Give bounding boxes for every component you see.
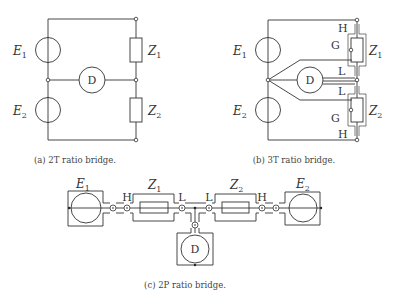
diagram-3t-bridge: D E1 E2 Z1 Z2 H G L L G H — [232, 18, 382, 165]
impedance-z2 — [222, 202, 249, 213]
caption-a: (a) 2T ratio bridge. — [34, 155, 116, 165]
label-z1: Z1 — [147, 178, 161, 194]
label-e2: E2 — [295, 177, 310, 193]
label-e2: E2 — [12, 104, 27, 120]
label-z1: Z1 — [368, 44, 382, 60]
caption-c: (c) 2P ratio bridge. — [144, 280, 226, 290]
label-l-top: L — [338, 65, 346, 78]
label-z2: Z2 — [368, 104, 382, 120]
label-g-bot: G — [331, 112, 340, 125]
label-l-left: L — [178, 191, 186, 204]
label-h-right: H — [257, 191, 267, 204]
diagram-2p-bridge: D E1 Z1 Z2 E2 H L L H (c) 2P ratio bridg… — [68, 177, 322, 290]
detector-label: D — [306, 74, 315, 87]
label-h-left: H — [122, 191, 132, 204]
impedance-z1 — [140, 202, 168, 213]
ratio-bridge-figure: D E1 E2 Z1 Z2 (a) 2T ratio bridge. D — [0, 0, 394, 293]
label-l-right: L — [205, 191, 213, 204]
label-z2: Z2 — [229, 178, 243, 194]
label-e1: E1 — [232, 44, 247, 60]
detector-label: D — [191, 243, 200, 256]
caption-b: (b) 3T ratio bridge. — [253, 155, 335, 165]
label-z2: Z2 — [147, 104, 161, 120]
label-g-top: G — [331, 39, 340, 52]
label-h-bot: H — [338, 128, 348, 141]
label-h-top: H — [338, 22, 348, 35]
label-e1: E1 — [75, 177, 90, 193]
label-l-bot: L — [338, 85, 346, 98]
impedance-z1 — [130, 38, 142, 62]
impedance-z2 — [130, 98, 142, 122]
detector-label: D — [88, 74, 97, 87]
label-e1: E1 — [12, 44, 27, 60]
label-e2: E2 — [232, 104, 247, 120]
label-z1: Z1 — [147, 44, 161, 60]
diagram-2t-bridge: D E1 E2 Z1 Z2 (a) 2T ratio bridge. — [12, 17, 161, 165]
